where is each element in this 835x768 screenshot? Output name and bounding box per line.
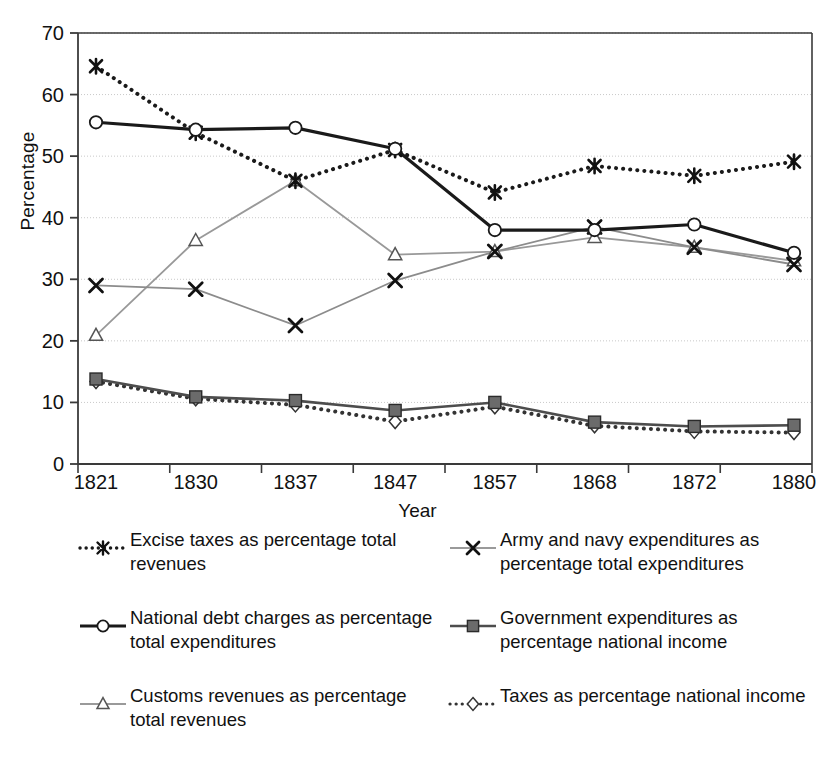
square-marker xyxy=(589,416,601,428)
circle-marker xyxy=(90,116,102,128)
line-chart-canvas xyxy=(0,0,835,510)
asterisk-marker xyxy=(589,159,601,173)
data-point-asterisk xyxy=(589,159,601,173)
circle-marker xyxy=(788,247,800,259)
data-point-asterisk xyxy=(788,154,800,168)
square-solid-icon xyxy=(448,614,498,638)
data-point-asterisk xyxy=(90,59,102,73)
data-point-circle xyxy=(588,224,600,236)
x-axis-label: Year xyxy=(0,500,835,522)
diamond-dotted-icon xyxy=(448,692,498,716)
triangle-marker xyxy=(189,233,202,245)
legend-item[interactable]: Army and navy expenditures as percentage… xyxy=(448,524,818,602)
x-marker xyxy=(389,274,402,287)
data-point-square xyxy=(190,391,202,403)
data-point-square xyxy=(589,416,601,428)
square-solid-icon xyxy=(448,614,498,638)
circle-marker xyxy=(688,218,700,230)
legend-column-right: Army and navy expenditures as percentage… xyxy=(448,524,818,758)
data-point-circle xyxy=(788,247,800,259)
legend-label: Taxes as percentage national income xyxy=(500,684,810,708)
circle-marker xyxy=(588,224,600,236)
data-point-circle xyxy=(289,122,301,134)
data-point-square xyxy=(90,373,102,385)
square-marker xyxy=(788,419,800,431)
chart-legend: Excise taxes as percentage total revenue… xyxy=(0,524,835,768)
triangle-line-icon xyxy=(78,692,128,716)
legend-label: Excise taxes as percentage total revenue… xyxy=(130,528,440,575)
chart-page: Percentage 010203040506070 1821183018371… xyxy=(0,0,835,768)
square-marker xyxy=(289,395,301,407)
series-line-4 xyxy=(96,181,794,336)
legend-label: Government expenditures as percentage na… xyxy=(500,606,810,653)
asterisk-dotted-icon xyxy=(78,536,128,560)
data-point-square xyxy=(788,419,800,431)
legend-item[interactable]: Excise taxes as percentage total revenue… xyxy=(78,524,448,602)
circle-solid-icon xyxy=(78,614,128,638)
circle-solid-icon xyxy=(78,614,128,638)
legend-label: National debt charges as percentage tota… xyxy=(130,606,440,653)
x-line-icon xyxy=(448,536,498,560)
data-point-square xyxy=(389,404,401,416)
legend-label: Army and navy expenditures as percentage… xyxy=(500,528,810,575)
asterisk-marker xyxy=(90,59,102,73)
square-marker xyxy=(190,391,202,403)
data-point-circle xyxy=(688,218,700,230)
data-point-circle xyxy=(489,224,501,236)
asterisk-marker xyxy=(788,154,800,168)
data-point-triangle xyxy=(189,233,202,245)
plot-area: Percentage 010203040506070 1821183018371… xyxy=(0,0,835,510)
circle-marker xyxy=(389,143,401,155)
data-point-x xyxy=(389,274,402,287)
x-marker xyxy=(289,319,302,332)
data-point-circle xyxy=(389,143,401,155)
data-point-asterisk xyxy=(688,169,700,183)
data-point-square xyxy=(289,395,301,407)
legend-label: Customs revenues as percentage total rev… xyxy=(130,684,440,731)
square-marker xyxy=(389,404,401,416)
circle-marker xyxy=(289,122,301,134)
legend-column-left: Excise taxes as percentage total revenue… xyxy=(78,524,448,758)
data-point-square xyxy=(489,396,501,408)
square-marker xyxy=(90,373,102,385)
asterisk-marker xyxy=(688,169,700,183)
x-line-icon xyxy=(448,536,498,560)
legend-item[interactable]: Customs revenues as percentage total rev… xyxy=(78,680,448,758)
diamond-dotted-icon xyxy=(448,692,498,716)
series-line-2 xyxy=(96,122,794,253)
square-marker xyxy=(688,420,700,432)
circle-marker xyxy=(190,123,202,135)
data-point-circle xyxy=(190,123,202,135)
legend-item[interactable]: Taxes as percentage national income xyxy=(448,680,818,758)
data-point-x xyxy=(289,319,302,332)
square-marker xyxy=(489,396,501,408)
legend-item[interactable]: Government expenditures as percentage na… xyxy=(448,602,818,680)
legend-item[interactable]: National debt charges as percentage tota… xyxy=(78,602,448,680)
data-point-circle xyxy=(90,116,102,128)
data-point-square xyxy=(688,420,700,432)
triangle-line-icon xyxy=(78,692,128,716)
circle-marker xyxy=(489,224,501,236)
asterisk-dotted-icon xyxy=(78,536,128,560)
